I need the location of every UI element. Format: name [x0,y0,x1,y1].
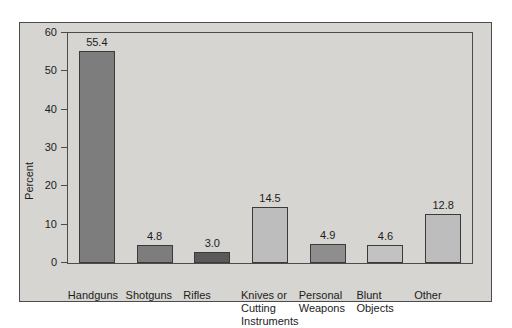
bar-value-label: 4.9 [320,229,335,241]
bar[interactable]: 3.0 [194,252,230,264]
x-axis-tick-label: Rifles [183,289,211,302]
x-axis-tick-label: Handguns [68,289,118,302]
bar[interactable]: 4.8 [137,245,173,263]
y-axis-tick-mark [61,147,68,148]
y-axis-tick-mark [61,262,68,263]
bar-value-label: 14.5 [259,192,280,204]
y-axis-tick-mark [61,224,68,225]
bar[interactable]: 4.9 [310,244,346,263]
y-axis-tick-label: 30 [17,140,57,155]
bar[interactable]: 55.4 [79,51,115,263]
bar-value-label: 4.6 [378,230,393,242]
bar[interactable]: 12.8 [425,214,461,263]
bar-value-label: 4.8 [147,230,162,242]
y-axis-tick-label: 50 [17,63,57,78]
y-axis-tick-label: 20 [17,178,57,193]
bar-value-label: 12.8 [432,199,453,211]
bar-value-label: 55.4 [86,36,107,48]
y-axis-tick-mark [61,32,68,33]
plot-area: 0102030405060 55.44.83.014.54.94.612.8 [67,32,473,264]
y-axis-tick-mark [61,70,68,71]
bar[interactable]: 4.6 [367,245,403,263]
y-axis-tick-mark [61,185,68,186]
chart-figure: Percent 0102030405060 55.44.83.014.54.94… [19,22,492,302]
x-axis-tick-label: Other [414,289,442,302]
x-axis-tick-label: Personal Weapons [299,289,345,315]
y-axis-tick-label: 40 [17,102,57,117]
y-axis-tick-label: 0 [17,255,57,270]
y-axis-tick-label: 10 [17,217,57,232]
x-axis-tick-label: Knives or Cutting Instruments [241,289,298,328]
bar[interactable]: 14.5 [252,207,288,263]
y-axis-tick-label: 60 [17,25,57,40]
x-axis-tick-label: Blunt Objects [356,289,393,315]
bar-value-label: 3.0 [205,237,220,249]
x-axis-tick-label: Shotguns [126,289,172,302]
y-axis-tick-mark [61,109,68,110]
